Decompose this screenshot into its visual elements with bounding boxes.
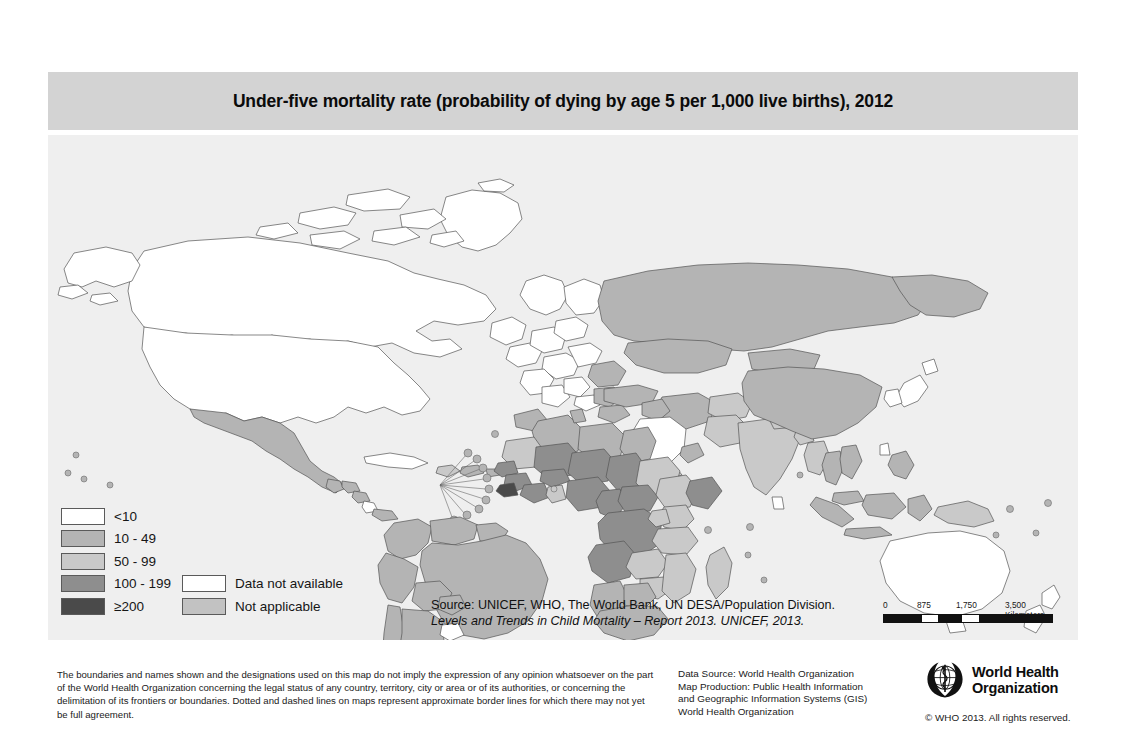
source-line-2: Levels and Trends in Child Mortality – R… — [431, 613, 835, 629]
legend-row: 100 - 199 Data not available — [61, 573, 343, 596]
legend-swatch-2 — [61, 553, 105, 570]
legend-row: <10 — [61, 505, 343, 528]
who-name-line-2: Organization — [972, 680, 1059, 696]
who-wordmark: World Health Organization — [972, 664, 1059, 696]
title-banner: Under-five mortality rate (probability o… — [48, 72, 1078, 130]
who-logo-row: World Health Organization — [925, 660, 1115, 700]
copyright-notice: © WHO 2013. All rights reserved. — [925, 712, 1115, 723]
data-source-line-2: Map Production: Public Health Informatio… — [678, 681, 893, 694]
legend-label-2: 50 - 99 — [114, 554, 176, 569]
data-source-line-1: Data Source: World Health Organization — [678, 668, 893, 681]
source-credit: Source: UNICEF, WHO, The World Bank, UN … — [431, 597, 835, 629]
legend-label-0: <10 — [114, 509, 176, 524]
legend-swatch-data-not-available — [182, 575, 226, 592]
legend-swatch-4 — [61, 598, 105, 615]
legend-swatch-not-applicable — [182, 598, 226, 615]
legend-label-1: 10 - 49 — [114, 531, 176, 546]
data-source-line-4: World Health Organization — [678, 706, 893, 719]
legend-label-data-not-available: Data not available — [235, 576, 343, 591]
legend-label-not-applicable: Not applicable — [235, 599, 321, 614]
region-alaska — [64, 247, 140, 287]
legend-swatch-0 — [61, 508, 105, 525]
region-taiwan — [880, 443, 890, 455]
data-source-block: Data Source: World Health Organization M… — [678, 668, 893, 718]
who-map-poster: Under-five mortality rate (probability o… — [0, 0, 1126, 737]
legend-row: 10 - 49 — [61, 528, 343, 551]
who-branding: World Health Organization © WHO 2013. Al… — [925, 660, 1115, 723]
source-line-1: Source: UNICEF, WHO, The World Bank, UN … — [431, 597, 835, 613]
legend-label-3: 100 - 199 — [114, 576, 176, 591]
map-legend: <10 10 - 49 50 - 99 100 - 199 Data not a… — [61, 505, 343, 618]
scale-tick-1750: 1,750 — [956, 600, 977, 610]
legend-label-4: ≥200 — [114, 599, 176, 614]
who-emblem-icon — [925, 660, 965, 700]
who-name-line-1: World Health — [972, 664, 1059, 680]
scale-tick-875: 875 — [917, 600, 931, 610]
legend-swatch-3 — [61, 575, 105, 592]
scale-bar: 0 875 1,750 3,500 Kilometers — [883, 600, 1061, 623]
legend-row: 50 - 99 — [61, 550, 343, 573]
scale-tick-0: 0 — [883, 600, 888, 610]
scale-bar-labels: 0 875 1,750 3,500 Kilometers — [883, 600, 1061, 613]
region-sri-lanka — [772, 497, 784, 509]
scale-bar-graphic — [883, 614, 1053, 623]
legend-swatch-1 — [61, 530, 105, 547]
map-panel: .c{stroke:#555;stroke-width:0.7;stroke-l… — [48, 135, 1078, 640]
data-source-line-3: and Geographic Information Systems (GIS) — [678, 693, 893, 706]
legend-row: ≥200 Not applicable — [61, 595, 343, 618]
page-title: Under-five mortality rate (probability o… — [233, 91, 893, 112]
map-disclaimer: The boundaries and names shown and the d… — [57, 668, 657, 721]
